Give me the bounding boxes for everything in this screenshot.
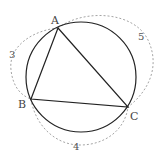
- dashed-arc-ab: [11, 28, 58, 99]
- vertex-label-a: A: [50, 14, 60, 27]
- vertex-label-b: B: [18, 98, 26, 111]
- triangle-abc: [31, 28, 128, 107]
- side-label-ac: 5: [138, 31, 144, 42]
- dashed-arc-ac: [58, 16, 153, 108]
- side-label-bc: 4: [73, 141, 79, 152]
- vertex-label-c: C: [130, 110, 138, 123]
- side-label-ab: 3: [9, 49, 15, 60]
- diagram-canvas: A B C 3 5 4: [0, 0, 167, 161]
- circumcircle: [26, 22, 136, 132]
